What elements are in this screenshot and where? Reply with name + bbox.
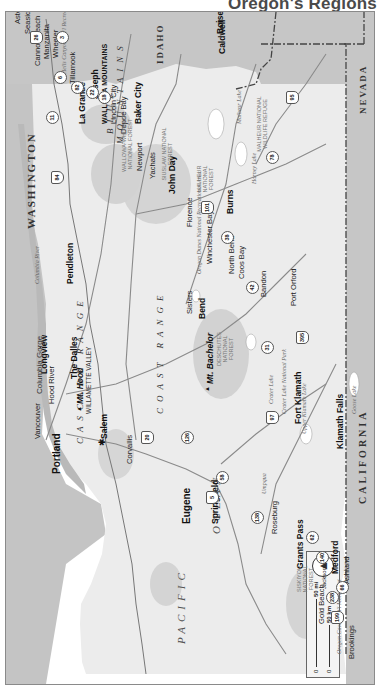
state-label-california: CALIFORNIA [358, 410, 368, 504]
highway-shield-101: 101 [201, 201, 214, 214]
city-medford: Medford [331, 540, 340, 574]
highway-shield-3: 3 [56, 31, 69, 44]
city-manzanita: Manzanita [43, 24, 51, 59]
highway-shield-i5: 5 [206, 491, 219, 504]
state-label-idaho: IDAHO [156, 23, 165, 64]
forest-wallowa-whitman: WALLOWA-WHITMAN NATIONAL FOREST [121, 114, 133, 174]
city-ashland: Ashland [343, 557, 351, 584]
lake-upper-klamath: Upper Klamath Lake [301, 383, 307, 434]
highway-shield-82: 82 [71, 81, 84, 94]
city-astoria: Astoria [14, 11, 22, 24]
city-boise: Boise [216, 11, 225, 34]
lake-malheur: Malheur Lake [236, 90, 242, 124]
park-crater-lake: Crater Lake National Park [281, 349, 287, 414]
highway-shield-140: 140 [316, 551, 329, 564]
city-tillamook: Tillamook [69, 52, 77, 84]
ocean-label-pacific: PACIFIC [176, 568, 187, 644]
city-florence: Florence [186, 197, 194, 227]
city-corvallis: Corvallis [126, 435, 134, 464]
highway-shield-42: 42 [246, 281, 259, 294]
city-vancouver: Vancouver [34, 403, 42, 439]
highway-shield-138: 138 [251, 511, 264, 524]
city-winchester-bay: Winchester Bay [206, 211, 214, 264]
state-label-washington: WASHINGTON [26, 132, 37, 229]
peak-mt-bachelor: Mt. Bachelor [206, 333, 215, 384]
city-bend: Bend [198, 298, 207, 319]
city-sisters: Sisters [186, 291, 194, 314]
city-pendleton: Pendleton [66, 243, 75, 284]
region-columbia-gorge: Columbia Gorge [36, 336, 44, 394]
city-coos-bay: Coos Bay [238, 246, 246, 279]
forest-siuslaw: SIUSLAW NATIONAL FOREST [161, 124, 173, 184]
lake-crater: Crater Lake [268, 375, 274, 404]
city-hood-river: Hood River [48, 366, 56, 404]
highway-shield-31: 31 [261, 341, 274, 354]
highway-shield-199: 199 [331, 611, 344, 624]
mountain-peak-icon: ▲ [76, 406, 82, 412]
scale-zero-mi: 0 [313, 670, 319, 673]
park-oregon-dunes: Oregon Dunes National Recreational Area [196, 171, 202, 274]
highway-shield-66: 66 [336, 581, 349, 594]
city-brookings: Brookings [348, 625, 356, 659]
city-eugene: Eugene [182, 488, 192, 524]
mountain-peak-icon: ▲ [204, 386, 210, 392]
highway-shield-11: 11 [46, 111, 59, 124]
capital-star-icon: ✱ [98, 438, 107, 446]
city-roseburg: Roseburg [271, 501, 279, 534]
city-salem: Salem [100, 414, 109, 439]
forest-siskiyou: SISKIYOU NATIONAL FOREST [296, 554, 314, 604]
scale-zero-km: 0 [326, 670, 332, 673]
city-newport: Newport [136, 143, 144, 171]
range-coast: COAST RANGE [156, 289, 165, 414]
highway-shield-i84: 84 [51, 171, 64, 184]
city-burns: Burns [226, 189, 235, 214]
region-willamette: WILLAMETTE VALLEY [86, 347, 93, 414]
city-bandon: Bandon [260, 271, 268, 297]
river-umpqua: Umpqua [261, 473, 267, 494]
highway-shield-78: 78 [266, 151, 279, 164]
highway-shield-395: 395 [296, 331, 309, 344]
city-baker-city: Baker City [134, 82, 143, 124]
highway-shield-126: 126 [181, 431, 194, 444]
highway-shield-26: 26 [30, 31, 43, 44]
highway-shield-38: 38 [221, 231, 234, 244]
lake-goose: Goose Lake [351, 386, 357, 415]
highway-shield-62: 62 [306, 531, 319, 544]
forest-malheur-refuge: MALHEUR NATIONAL WILDLIFE REFUGE [256, 94, 268, 154]
oregon-map: 0 0 50 mi 50 km ▲ PACIFIC OCEAN WASHINGT… [5, 11, 375, 685]
highway-shield-95: 95 [286, 91, 299, 104]
city-port-orford: Port Orford [290, 268, 298, 306]
highway-shield-18: 18 [98, 91, 111, 104]
city-gold-beach: Gold Beach [318, 584, 326, 624]
city-portland: Portland [52, 433, 62, 474]
lake-harney: Harney Lake [251, 153, 257, 184]
range-cascade: CASCADE RANGE [76, 295, 85, 444]
forest-deschutes: DESCHUTES NATIONAL FOREST [216, 324, 234, 374]
highway-shield-97: 97 [266, 411, 279, 424]
highway-shield-238: 238 [326, 591, 339, 604]
highway-shield-58: 58 [216, 471, 229, 484]
city-yachats: Yachats [149, 152, 157, 179]
state-label-nevada: NEVADA [359, 65, 368, 114]
highway-shield-20: 20 [141, 431, 154, 444]
river-columbia: Columbia River [34, 246, 40, 284]
highway-shield-6: 6 [54, 71, 67, 84]
city-klamath-falls: Klamath Falls [336, 394, 345, 449]
range-wallowa: WALLOWA MOUNTAINS [101, 44, 108, 124]
